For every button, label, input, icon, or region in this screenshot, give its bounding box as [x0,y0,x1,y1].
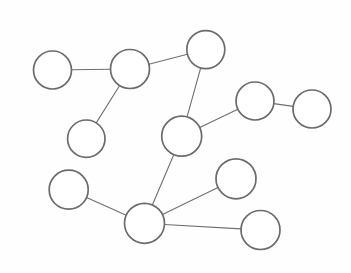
node-far-right[interactable] [293,90,331,128]
edge-bottom-hub-to-lower-right[interactable] [162,188,218,215]
node-bottom-hub[interactable] [125,203,165,243]
node-lower-left[interactable] [49,170,88,209]
edge-lower-left-to-bottom-hub[interactable] [87,198,127,216]
node-top-left[interactable] [34,51,72,89]
edge-center-to-right-upper[interactable] [200,109,238,127]
edge-upper-left-mid-to-top-center[interactable] [149,54,188,64]
edge-bottom-hub-to-bottom-right[interactable] [164,224,241,228]
edge-top-center-to-center[interactable] [187,68,201,117]
node-lower-right-upper[interactable] [216,159,256,199]
edge-center-to-bottom-hub[interactable] [152,155,173,205]
node-center[interactable] [162,116,202,156]
graph-canvas [0,0,351,273]
node-right-upper[interactable] [236,82,274,120]
node-top-center[interactable] [187,31,225,69]
node-bottom-right[interactable] [241,211,280,250]
edge-upper-left-mid-to-left-mid[interactable] [96,86,119,123]
edge-right-upper-to-far-right[interactable] [274,104,293,107]
node-left-mid[interactable] [68,120,105,157]
graph-diagram [0,0,351,273]
node-upper-left-mid[interactable] [111,50,150,89]
edge-top-left-to-upper-left-mid[interactable] [72,69,111,70]
node-layer [34,31,332,250]
